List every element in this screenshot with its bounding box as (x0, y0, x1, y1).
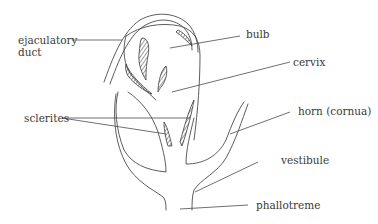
label-ejaculatory: ejaculatory (18, 34, 77, 46)
label-cervix: cervix (293, 56, 325, 68)
label-bulb: bulb (246, 28, 270, 40)
label-horn-cornua: horn (cornua) (298, 105, 371, 117)
label-vestibule: vestibule (281, 154, 329, 166)
leader-lines (62, 36, 290, 209)
body-outline (115, 94, 248, 210)
label-duct: duct (18, 46, 77, 58)
label-phallotreme: phallotreme (256, 199, 320, 211)
label-ejaculatory-duct: ejaculatory duct (18, 34, 77, 58)
ejaculatory-duct-shape (104, 14, 198, 84)
upper-sclerites (139, 38, 167, 92)
label-sclerites: sclerites (24, 112, 69, 124)
horn-left (116, 92, 166, 172)
